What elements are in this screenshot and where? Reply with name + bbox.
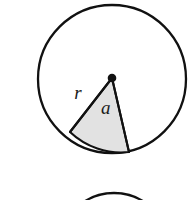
- second-circle-partial: [59, 193, 169, 200]
- figure-canvas: r a: [0, 0, 188, 200]
- radius-label-r: r: [74, 82, 82, 103]
- circle-center-dot: [108, 74, 117, 83]
- geometry-figure: r a: [0, 0, 188, 200]
- area-label-a: a: [101, 97, 111, 118]
